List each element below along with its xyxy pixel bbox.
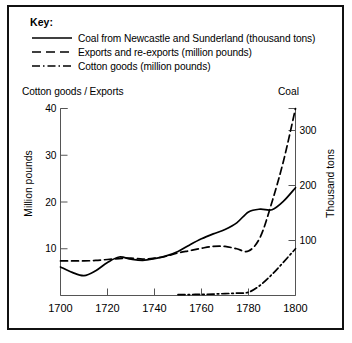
right-axis-title: Thousand tons — [325, 134, 336, 234]
left-axis-header: Cotton goods / Exports — [22, 86, 123, 97]
legend-dashdot-line-icon — [30, 60, 74, 72]
legend: Key: Coal from Newcastle and Sunderland … — [30, 16, 330, 73]
legend-dashed-line-icon — [30, 46, 74, 58]
legend-coal: Coal from Newcastle and Sunderland (thou… — [30, 31, 330, 45]
right-axis-header: Coal — [278, 86, 299, 97]
legend-exports-label: Exports and re-exports (million pounds) — [78, 47, 252, 58]
figure-panel: Key: Coal from Newcastle and Sunderland … — [0, 0, 352, 343]
legend-exports: Exports and re-exports (million pounds) — [30, 45, 330, 59]
legend-coal-label: Coal from Newcastle and Sunderland (thou… — [78, 33, 315, 44]
legend-title: Key: — [30, 16, 330, 28]
left-axis-title: Million pounds — [23, 134, 34, 234]
legend-solid-line-icon — [30, 32, 74, 44]
legend-cotton-label: Cotton goods (million pounds) — [78, 61, 210, 72]
legend-cotton: Cotton goods (million pounds) — [30, 59, 330, 73]
